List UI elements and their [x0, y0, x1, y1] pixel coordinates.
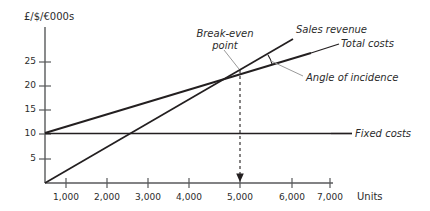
break-even-arrowhead [236, 174, 244, 183]
y-axis-title: £/$/€000s [24, 11, 74, 22]
y-tick-label-25: 25 [20, 56, 36, 67]
x-tick-label-2000: 2,000 [85, 192, 129, 203]
break-even-label-line2: point [182, 40, 268, 51]
x-axis-title: Units [357, 191, 383, 202]
sales-revenue-line [45, 39, 293, 183]
y-tick-label-10: 10 [20, 128, 36, 139]
x-tick-label-7000: 7,000 [308, 192, 352, 203]
break-even-label-line1: Break-even [182, 28, 268, 39]
break-even-leader-line [224, 50, 239, 69]
y-tick-label-20: 20 [20, 80, 36, 91]
total-costs-leader-line [311, 44, 339, 53]
angle-of-incidence-label: Angle of incidence [306, 72, 398, 83]
sales-revenue-label: Sales revenue [296, 24, 367, 35]
angle-of-incidence-leader-line [271, 61, 303, 76]
fixed-costs-label: Fixed costs [355, 128, 411, 139]
total-costs-line [45, 53, 311, 133]
break-even-chart: £/$/€000s 25 20 15 10 5 1,000 2,000 3,00… [0, 0, 430, 211]
y-tick-label-15: 15 [20, 104, 36, 115]
x-tick-label-4000: 4,000 [167, 192, 211, 203]
angle-of-incidence-arc [268, 55, 272, 64]
x-tick-label-3000: 3,000 [126, 192, 170, 203]
x-tick-label-5000: 5,000 [218, 192, 262, 203]
y-tick-label-5: 5 [20, 153, 36, 164]
x-tick-label-1000: 1,000 [44, 192, 88, 203]
total-costs-label: Total costs [341, 38, 394, 49]
